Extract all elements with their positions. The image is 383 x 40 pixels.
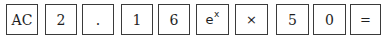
key-label: 5 bbox=[288, 13, 297, 27]
equals-icon: = bbox=[360, 13, 371, 26]
exp-base: e bbox=[206, 13, 214, 28]
multiply-button[interactable]: × bbox=[235, 4, 268, 35]
key-label: . bbox=[96, 13, 100, 27]
key-label: 6 bbox=[170, 13, 179, 27]
exponential-button[interactable]: ex bbox=[196, 4, 229, 35]
digit-6-button[interactable]: 6 bbox=[158, 4, 190, 35]
key-label: 1 bbox=[133, 13, 142, 27]
decimal-point-button[interactable]: . bbox=[82, 4, 114, 35]
multiply-icon: × bbox=[246, 13, 257, 26]
key-label: AC bbox=[12, 13, 33, 27]
digit-1-button[interactable]: 1 bbox=[121, 4, 153, 35]
exp-superscript: x bbox=[214, 9, 219, 19]
calculator-key-sequence: AC 2 . 1 6 ex × 5 0 = bbox=[0, 0, 383, 40]
key-label: 0 bbox=[325, 13, 334, 27]
digit-0-button[interactable]: 0 bbox=[313, 4, 346, 35]
key-label: ex bbox=[206, 12, 220, 26]
digit-2-button[interactable]: 2 bbox=[45, 4, 77, 35]
digit-5-button[interactable]: 5 bbox=[276, 4, 309, 35]
all-clear-button[interactable]: AC bbox=[6, 4, 38, 35]
key-label: 2 bbox=[57, 13, 66, 27]
equals-button[interactable]: = bbox=[350, 4, 381, 35]
